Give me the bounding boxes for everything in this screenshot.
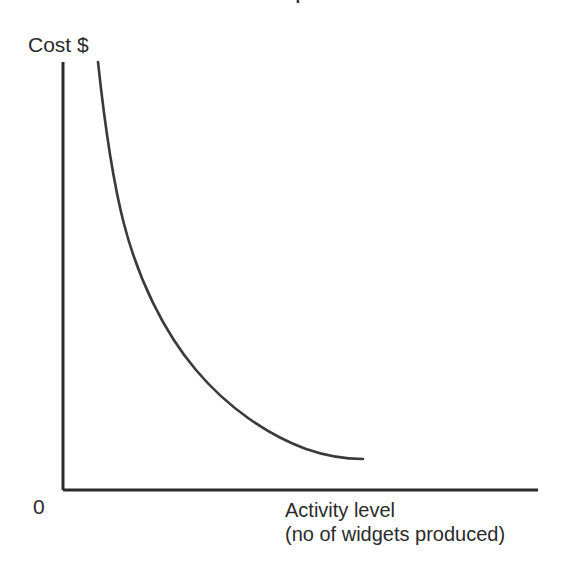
x-axis-label: Activity level (no of widgets produced) [285,499,505,546]
y-axis-label: Cost $ [28,33,89,58]
plot-area [0,0,564,574]
origin-label: 0 [33,495,45,520]
cost-per-unit-curve [98,62,363,459]
x-axis-label-line1: Activity level [285,499,505,523]
x-axis-label-line2: (no of widgets produced) [285,523,505,547]
chart-figure: Fixed cost per unit Cost $ 0 Activity le… [0,0,564,574]
